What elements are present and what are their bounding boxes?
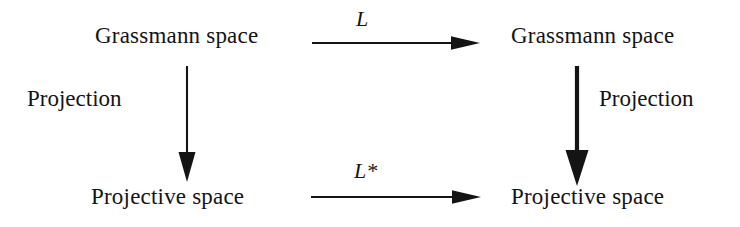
edge-label-right-projection: Projection [599, 87, 694, 110]
arrowhead-right-icon [452, 190, 481, 204]
commutative-diagram: Grassmann space Grassmann space Projecti… [0, 0, 740, 227]
arrow-left-vertical-down [176, 66, 200, 186]
node-top-left-grassmann-space: Grassmann space [95, 24, 258, 47]
arrowhead-right-icon [451, 36, 480, 50]
arrow-right-vertical-down [564, 66, 594, 190]
node-bottom-left-projective-space: Projective space [91, 185, 244, 208]
arrow-top-horizontal-right [312, 33, 482, 53]
edge-label-top-L: L [356, 8, 368, 30]
arrowhead-down-icon [566, 150, 589, 186]
edge-label-left-projection: Projection [27, 87, 122, 110]
edge-label-bottom-L-star: L* [354, 160, 377, 182]
arrowhead-down-icon [179, 152, 196, 182]
arrow-bottom-horizontal-right [311, 187, 483, 207]
node-top-right-grassmann-space: Grassmann space [511, 24, 674, 47]
